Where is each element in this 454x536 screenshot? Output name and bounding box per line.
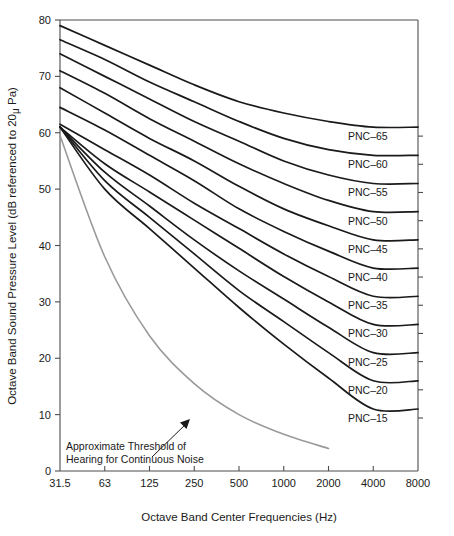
x-tick-label-2000: 2000 xyxy=(316,477,340,489)
y-tick-label-40: 40 xyxy=(39,240,51,252)
curve-label-pnc-20: PNC–20 xyxy=(348,384,388,396)
curve-label-pnc-30: PNC–30 xyxy=(348,327,388,339)
y-tick-label-80: 80 xyxy=(39,14,51,26)
x-tick-label-1000: 1000 xyxy=(272,477,296,489)
curve-label-pnc-60: PNC–60 xyxy=(348,158,388,170)
threshold-annotation-line2: Hearing for Continuous Noise xyxy=(66,453,204,465)
threshold-annotation-line1: Approximate Threshold of xyxy=(66,440,186,452)
y-tick-label-60: 60 xyxy=(39,127,51,139)
y-tick-label-70: 70 xyxy=(39,70,51,82)
pnc-curves-chart-figure: 01020304050607080 31.5631252505001000200… xyxy=(0,0,454,536)
y-tick-label-10: 10 xyxy=(39,409,51,421)
curve-label-pnc-35: PNC–35 xyxy=(348,299,388,311)
y-tick-label-20: 20 xyxy=(39,352,51,364)
y-tick-label-0: 0 xyxy=(45,465,51,477)
x-tick-label-250: 250 xyxy=(185,477,203,489)
y-axis-title-before: Octave Band Sound Pressure Level (dB ref… xyxy=(6,114,18,405)
x-tick-label-8000: 8000 xyxy=(406,477,430,489)
curve-label-pnc-15: PNC–15 xyxy=(348,412,388,424)
curve-label-pnc-40: PNC–40 xyxy=(348,271,388,283)
x-tick-label-63: 63 xyxy=(99,477,111,489)
y-axis-title-after: Pa) xyxy=(6,87,18,108)
curve-label-pnc-55: PNC–55 xyxy=(348,186,388,198)
x-axis-tick-labels: 31.5631252505001000200040008000 xyxy=(49,477,430,489)
x-tick-label-31.5: 31.5 xyxy=(49,477,70,489)
x-tick-label-4000: 4000 xyxy=(361,477,385,489)
curve-label-pnc-45: PNC–45 xyxy=(348,243,388,255)
curve-label-pnc-25: PNC–25 xyxy=(348,356,388,368)
y-tick-label-30: 30 xyxy=(39,296,51,308)
curve-label-pnc-65: PNC–65 xyxy=(348,130,388,142)
x-tick-label-125: 125 xyxy=(140,477,158,489)
curve-label-pnc-50: PNC–50 xyxy=(348,215,388,227)
x-axis-title: Octave Band Center Frequencies (Hz) xyxy=(141,511,337,523)
chart-canvas: 01020304050607080 31.5631252505001000200… xyxy=(0,0,454,536)
x-tick-label-500: 500 xyxy=(230,477,248,489)
y-tick-label-50: 50 xyxy=(39,183,51,195)
